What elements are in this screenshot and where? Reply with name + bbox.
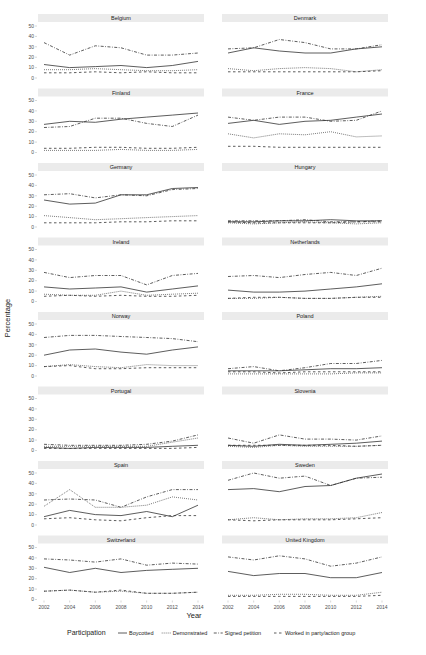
series-line-worked-in-party-action-group xyxy=(44,366,198,369)
panel-portugal: Portugal01020304050 xyxy=(28,387,204,454)
x-tick-label: 2006 xyxy=(90,604,101,610)
panel-hungary: Hungary xyxy=(222,163,388,224)
panel-united-kingdom: United Kingdom20022004200620082010201220… xyxy=(222,536,388,610)
series-line-demonstrated xyxy=(44,490,198,508)
series-line-worked-in-party-action-group xyxy=(228,518,382,521)
y-tick-label: 10 xyxy=(28,139,34,145)
panel-germany: Germany01020304050 xyxy=(28,163,204,230)
panel-title: Denmark xyxy=(294,15,317,21)
series-line-demonstrated xyxy=(228,132,382,138)
x-tick-label: 2012 xyxy=(167,604,178,610)
y-tick-label: 10 xyxy=(28,288,34,294)
y-tick-label: 0 xyxy=(31,373,34,379)
series-line-worked-in-party-action-group xyxy=(44,221,198,223)
panel-netherlands: Netherlands xyxy=(222,238,388,299)
panel-title: Sweden xyxy=(295,462,315,468)
y-tick-label: 50 xyxy=(28,544,34,550)
series-line-boycotted xyxy=(228,284,382,292)
series-line-boycotted xyxy=(228,571,382,577)
series-line-worked-in-party-action-group xyxy=(228,71,382,72)
y-tick-label: 40 xyxy=(28,480,34,486)
legend-title: Participation xyxy=(67,629,106,637)
panel-title: Belgium xyxy=(111,15,131,21)
panel-title: Poland xyxy=(296,313,313,319)
series-line-signed-petition xyxy=(228,473,382,486)
series-line-worked-in-party-action-group xyxy=(228,595,382,596)
series-line-worked-in-party-action-group xyxy=(44,72,198,73)
y-axis-title: Percentage xyxy=(3,299,12,337)
y-tick-label: 40 xyxy=(28,257,34,263)
y-tick-label: 40 xyxy=(28,33,34,39)
y-tick-label: 30 xyxy=(28,416,34,422)
y-tick-label: 40 xyxy=(28,331,34,337)
y-tick-label: 20 xyxy=(28,203,34,209)
panel-title: France xyxy=(296,90,313,96)
y-tick-label: 50 xyxy=(28,246,34,252)
y-tick-label: 40 xyxy=(28,406,34,412)
y-tick-label: 0 xyxy=(31,75,34,81)
x-tick-label: 2008 xyxy=(299,604,310,610)
y-tick-label: 40 xyxy=(28,555,34,561)
legend-label: Signed petition xyxy=(225,630,261,636)
legend-label: Boycotted xyxy=(129,630,153,636)
y-tick-label: 20 xyxy=(28,128,34,134)
series-line-boycotted xyxy=(228,368,382,371)
faceted-line-chart: Belgium01020304050DenmarkFinland01020304… xyxy=(0,0,426,655)
y-tick-label: 30 xyxy=(28,342,34,348)
series-line-signed-petition xyxy=(44,43,198,56)
x-tick-label: 2014 xyxy=(192,604,203,610)
panel-title: Ireland xyxy=(113,239,130,245)
series-line-demonstrated xyxy=(44,291,198,295)
series-line-signed-petition xyxy=(44,559,198,565)
y-tick-label: 10 xyxy=(28,362,34,368)
y-tick-label: 0 xyxy=(31,596,34,602)
series-line-boycotted xyxy=(44,505,198,517)
y-tick-label: 0 xyxy=(31,522,34,528)
series-line-demonstrated xyxy=(228,68,382,72)
series-line-demonstrated xyxy=(44,365,198,368)
series-line-signed-petition xyxy=(44,435,198,445)
series-line-boycotted xyxy=(44,61,198,67)
panel-title: Portugal xyxy=(111,388,132,394)
y-tick-label: 30 xyxy=(28,44,34,50)
y-tick-label: 10 xyxy=(28,511,34,517)
x-tick-label: 2004 xyxy=(64,604,75,610)
panel-title: United Kingdom xyxy=(285,537,325,543)
series-line-boycotted xyxy=(44,567,198,572)
x-tick-label: 2006 xyxy=(274,604,285,610)
y-tick-label: 40 xyxy=(28,108,34,114)
y-tick-label: 50 xyxy=(28,470,34,476)
y-tick-label: 20 xyxy=(28,352,34,358)
series-line-boycotted xyxy=(44,188,198,205)
panel-slovenia: Slovenia xyxy=(222,387,388,448)
series-line-signed-petition xyxy=(44,272,198,285)
series-line-worked-in-party-action-group xyxy=(228,372,382,373)
y-tick-label: 50 xyxy=(28,321,34,327)
series-line-worked-in-party-action-group xyxy=(44,295,198,296)
series-line-boycotted xyxy=(44,347,198,355)
y-tick-label: 20 xyxy=(28,575,34,581)
panel-norway: Norway01020304050 xyxy=(28,312,204,379)
series-line-boycotted xyxy=(44,113,198,124)
panel-denmark: Denmark xyxy=(222,14,388,72)
y-tick-label: 10 xyxy=(28,213,34,219)
series-line-signed-petition xyxy=(44,335,198,341)
x-tick-label: 2008 xyxy=(115,604,126,610)
panel-title: Switzerland xyxy=(107,537,135,543)
y-tick-label: 20 xyxy=(28,277,34,283)
legend-label: Worked in party/action group xyxy=(285,630,355,636)
panel-finland: Finland01020304050 xyxy=(28,89,204,156)
panel-sweden: Sweden xyxy=(222,461,388,521)
series-line-demonstrated xyxy=(44,216,198,220)
series-line-worked-in-party-action-group xyxy=(44,516,198,521)
y-tick-label: 20 xyxy=(28,426,34,432)
series-line-boycotted xyxy=(228,474,382,492)
x-tick-label: 2014 xyxy=(376,604,387,610)
y-tick-label: 30 xyxy=(28,565,34,571)
series-line-demonstrated xyxy=(44,149,198,150)
x-tick-label: 2002 xyxy=(222,604,233,610)
panel-title: Spain xyxy=(114,462,128,468)
x-axis-title: Year xyxy=(186,611,202,620)
series-line-signed-petition xyxy=(228,556,382,566)
series-line-worked-in-party-action-group xyxy=(228,146,382,147)
